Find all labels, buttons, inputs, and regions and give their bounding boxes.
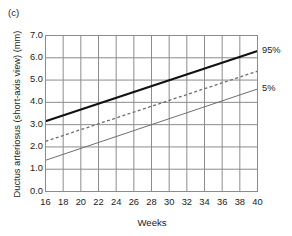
series-annotation-95pct: 95% — [262, 46, 281, 55]
x-tick-label: 40 — [245, 198, 271, 207]
chart-figure: (c) Ductus arteriosus (short-axis view) … — [0, 0, 292, 236]
series-annotation-5pct: 5% — [262, 84, 275, 93]
x-axis-ticks: 16182022242628303234363840 — [0, 0, 292, 236]
x-axis-title: Weeks — [45, 217, 259, 228]
